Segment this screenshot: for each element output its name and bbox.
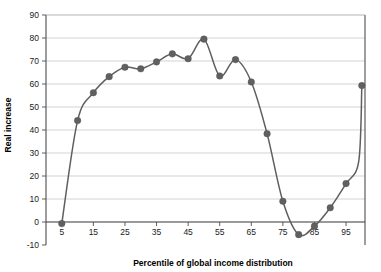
y-tick-label-40: 40 xyxy=(30,125,40,135)
chart-container: -100102030405060708090 51525354555657585… xyxy=(0,0,381,272)
x-axis-title: Percentile of global income distribution xyxy=(133,258,293,268)
y-tick-label-10: 10 xyxy=(30,194,40,204)
x-tick-label-15: 15 xyxy=(89,227,99,237)
x-tick-label-45: 45 xyxy=(183,227,193,237)
x-tick-label-55: 55 xyxy=(215,227,225,237)
series-line-real-increase xyxy=(62,39,362,236)
x-axis-ticks-group: 5152535455565758595 xyxy=(59,222,351,237)
y-axis-title: Real increase xyxy=(3,97,13,152)
data-point-p40 xyxy=(169,51,176,58)
data-point-p65 xyxy=(248,79,255,86)
y-tick-label-50: 50 xyxy=(30,102,40,112)
x-tick-label-5: 5 xyxy=(59,227,64,237)
data-point-p5 xyxy=(58,220,65,227)
elephant-curve-chart: -100102030405060708090 51525354555657585… xyxy=(0,0,381,272)
y-tick-label-60: 60 xyxy=(30,79,40,89)
y-tick-label-70: 70 xyxy=(30,56,40,66)
data-point-p75 xyxy=(280,198,287,205)
y-tick-label-20: 20 xyxy=(30,171,40,181)
data-point-p80 xyxy=(295,231,302,238)
y-tick-label-80: 80 xyxy=(30,33,40,43)
data-point-p90 xyxy=(327,204,334,211)
data-point-p100 xyxy=(359,82,366,89)
x-tick-label-35: 35 xyxy=(152,227,162,237)
data-point-p10 xyxy=(74,117,81,124)
data-point-p25 xyxy=(122,64,129,71)
x-tick-label-95: 95 xyxy=(341,227,351,237)
data-point-p85 xyxy=(311,223,318,230)
data-point-p55 xyxy=(216,73,223,80)
series-markers-group xyxy=(58,36,365,238)
data-point-p45 xyxy=(185,55,192,62)
data-point-p30 xyxy=(137,66,144,73)
data-point-p60 xyxy=(232,56,239,63)
data-point-p35 xyxy=(153,59,160,66)
x-tick-label-25: 25 xyxy=(120,227,130,237)
gridlines-group xyxy=(46,15,365,222)
data-point-p70 xyxy=(264,130,271,137)
data-point-p50 xyxy=(201,36,208,43)
data-point-p20 xyxy=(106,73,113,80)
x-tick-label-65: 65 xyxy=(247,227,257,237)
data-point-p15 xyxy=(90,89,97,96)
data-point-p95 xyxy=(343,180,350,187)
y-tick-label-0: 0 xyxy=(34,217,39,227)
x-tick-label-75: 75 xyxy=(278,227,288,237)
y-tick-label-90: 90 xyxy=(30,10,40,20)
y-tick-label--10: -10 xyxy=(27,240,40,250)
y-axis-ticks-group: -100102030405060708090 xyxy=(27,10,46,250)
y-tick-label-30: 30 xyxy=(30,148,40,158)
